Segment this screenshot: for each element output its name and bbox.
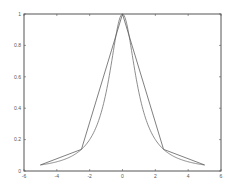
x-tick-label: 6 xyxy=(220,173,223,179)
x-tick-label: 0 xyxy=(121,173,124,179)
x-tick-label: 4 xyxy=(187,173,190,179)
y-tick-label: 0 xyxy=(18,168,21,174)
y-tick-label: 0.2 xyxy=(14,136,21,142)
x-tick-label: 2 xyxy=(154,173,157,179)
y-tick-label: 0.4 xyxy=(14,105,21,111)
x-axis-tick-labels: -6-4-20246 xyxy=(22,173,223,179)
y-tick-label: 0.8 xyxy=(14,42,21,48)
y-tick-label: 1 xyxy=(18,11,21,17)
line-chart: -6-4-20246 00.20.40.60.81 xyxy=(0,0,235,186)
x-tick-label: -4 xyxy=(55,173,60,179)
y-tick-label: 0.6 xyxy=(14,74,21,80)
plot-area xyxy=(24,14,221,171)
y-axis-tick-labels: 00.20.40.60.81 xyxy=(14,11,21,174)
x-tick-label: -2 xyxy=(87,173,92,179)
x-tick-label: -6 xyxy=(22,173,27,179)
